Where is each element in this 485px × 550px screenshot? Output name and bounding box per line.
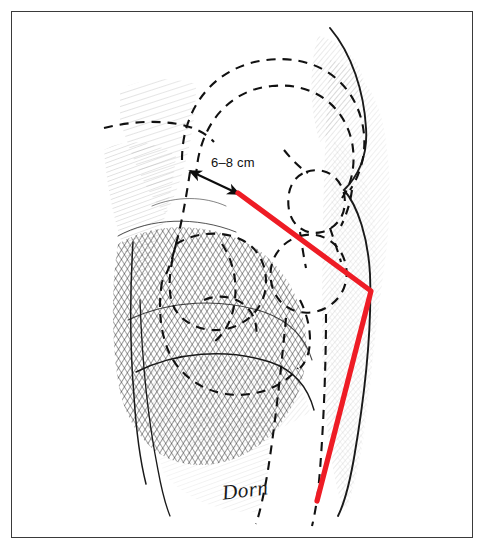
measurement-arrow — [190, 171, 239, 194]
measurement-label: 6–8 cm — [211, 155, 255, 170]
figure-page: 6–8 cm Dorn — [0, 0, 485, 550]
illustration-canvas — [0, 0, 485, 550]
trochanter-superior-line — [284, 150, 308, 173]
